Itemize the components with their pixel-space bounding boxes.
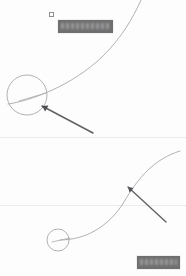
vector-layer bbox=[0, 0, 186, 276]
lower-panel bbox=[47, 151, 180, 251]
lower-arrow-shaft bbox=[128, 187, 166, 222]
upper-square-marker bbox=[49, 12, 54, 17]
lower-curve bbox=[60, 151, 180, 240]
upper-circle-leader-line bbox=[19, 93, 46, 101]
lower-label bbox=[137, 256, 180, 269]
diagram-canvas bbox=[0, 0, 186, 276]
upper-arrow-shaft bbox=[42, 106, 93, 133]
upper-curve bbox=[8, 0, 141, 104]
upper-label bbox=[58, 20, 113, 33]
